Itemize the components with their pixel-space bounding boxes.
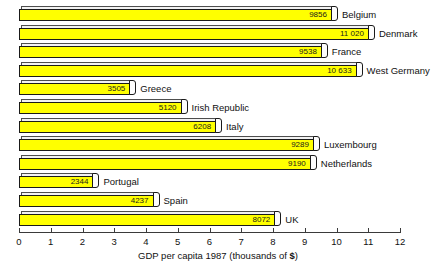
bar-end-cap — [215, 118, 222, 133]
bar-end-cap — [92, 173, 99, 188]
bar-row: 8072UK — [0, 211, 436, 229]
bar-value-label: 5120 — [19, 102, 177, 114]
bar-category-label: Italy — [226, 120, 243, 134]
bar-category-label: France — [332, 45, 362, 59]
bar-end-cap — [321, 43, 328, 58]
x-tick-mark — [273, 228, 274, 233]
bar-value-label: 3505 — [19, 83, 125, 95]
x-axis-title-paren-open: (thousands of — [229, 250, 289, 261]
bar-end-cap — [129, 80, 136, 95]
x-axis-title-paren-close: ) — [295, 250, 298, 261]
bar-value-label: 8072 — [19, 214, 270, 226]
bar-value-label: 2344 — [19, 176, 88, 188]
x-tick-label: 2 — [71, 236, 95, 247]
bar-value-label: 6208 — [19, 121, 211, 133]
bar-category-label: West Germany — [367, 64, 430, 78]
x-tick-label: 7 — [229, 236, 253, 247]
x-tick-label: 12 — [388, 236, 412, 247]
bar-value-label: 4237 — [19, 195, 149, 207]
x-tick-label: 9 — [293, 236, 317, 247]
bar-category-label: Belgium — [342, 8, 376, 22]
bar-row: 11 020Denmark — [0, 25, 436, 43]
bar-category-label: Spain — [164, 194, 188, 208]
bar-row: 6208Italy — [0, 118, 436, 136]
bar-category-label: Luxembourg — [324, 138, 377, 152]
x-tick-mark — [305, 228, 306, 233]
x-tick-mark — [368, 228, 369, 233]
x-tick-label: 3 — [102, 236, 126, 247]
bar-category-label: Denmark — [379, 27, 418, 41]
bar-end-cap — [331, 6, 338, 21]
bar-category-label: Portugal — [103, 175, 138, 189]
x-tick-label: 8 — [261, 236, 285, 247]
bar-end-cap — [274, 211, 281, 226]
bar-row: 9190Netherlands — [0, 155, 436, 173]
x-tick-label: 11 — [356, 236, 380, 247]
x-tick-mark — [337, 228, 338, 233]
bar-value-label: 10 633 — [19, 65, 352, 77]
x-tick-mark — [83, 228, 84, 233]
x-tick-label: 5 — [166, 236, 190, 247]
bar-row: 4237Spain — [0, 192, 436, 210]
x-tick-mark — [146, 228, 147, 233]
x-tick-mark — [51, 228, 52, 233]
x-tick-mark — [19, 228, 20, 233]
bar-value-label: 9190 — [19, 158, 306, 170]
x-tick-mark — [178, 228, 179, 233]
bar-end-cap — [356, 62, 363, 77]
bar-value-label: 9538 — [19, 46, 317, 58]
bar-category-label: Irish Republic — [192, 101, 250, 115]
bar-end-cap — [368, 25, 375, 40]
bar-end-cap — [153, 192, 160, 207]
x-tick-label: 4 — [134, 236, 158, 247]
bar-category-label: Netherlands — [321, 157, 372, 171]
bar-row: 5120Irish Republic — [0, 99, 436, 117]
bar-row: 2344Portugal — [0, 173, 436, 191]
bar-category-label: UK — [285, 213, 298, 227]
x-tick-mark — [210, 228, 211, 233]
bar-category-label: Greece — [140, 82, 171, 96]
bar-row: 9856Belgium — [0, 6, 436, 24]
x-tick-mark — [241, 228, 242, 233]
bar-row: 9289Luxembourg — [0, 136, 436, 154]
bar-row: 10 633West Germany — [0, 62, 436, 80]
x-axis-title: GDP per capita 1987 (thousands of $) — [0, 250, 436, 261]
bar-row: 9538France — [0, 43, 436, 61]
x-tick-label: 10 — [325, 236, 349, 247]
plot-area: 9856Belgium11 020Denmark9538France10 633… — [0, 0, 436, 225]
bar-end-cap — [181, 99, 188, 114]
bar-end-cap — [313, 136, 320, 151]
x-tick-label: 0 — [7, 236, 31, 247]
bar-value-label: 9856 — [19, 9, 327, 21]
x-tick-label: 1 — [39, 236, 63, 247]
bar-value-label: 9289 — [19, 139, 309, 151]
bar-end-cap — [310, 155, 317, 170]
x-tick-mark — [400, 228, 401, 233]
x-axis-title-main: GDP per capita 1987 — [138, 250, 229, 261]
x-tick-label: 6 — [198, 236, 222, 247]
x-tick-mark — [114, 228, 115, 233]
bar-row: 3505Greece — [0, 80, 436, 98]
bar-chart: 9856Belgium11 020Denmark9538France10 633… — [0, 0, 436, 267]
bar-value-label: 11 020 — [19, 28, 364, 40]
